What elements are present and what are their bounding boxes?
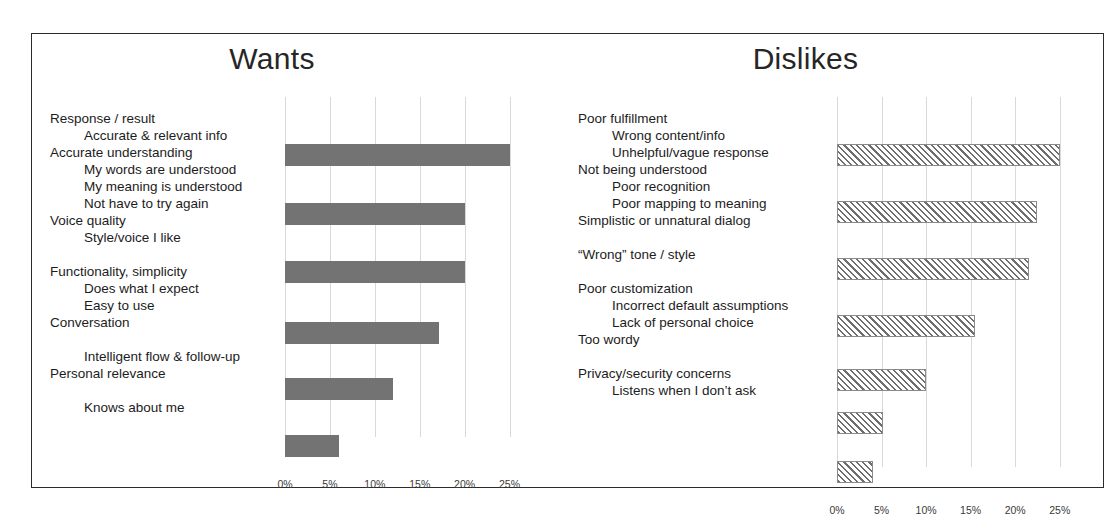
category-label-main: Too wordy (578, 331, 843, 348)
label-spacer (578, 229, 843, 246)
category-label-sub: Lack of personal choice (578, 314, 843, 331)
slide-frame: Wants Response / resultAccurate & releva… (31, 33, 1104, 488)
category-label-list-dislikes: Poor fulfillmentWrong content/infoUnhelp… (578, 110, 843, 399)
category-label-sub: Does what I expect (50, 280, 300, 297)
category-label-main: Conversation (50, 314, 300, 331)
gridline (1060, 97, 1061, 467)
bar (837, 258, 1029, 280)
category-label-main: Voice quality (50, 212, 300, 229)
category-label-sub: My meaning is understood (50, 178, 300, 195)
category-label-sub: Poor recognition (578, 178, 843, 195)
category-label-sub: Accurate & relevant info (50, 127, 300, 144)
bar (837, 144, 1060, 166)
panel-wants: Wants Response / resultAccurate & releva… (32, 34, 562, 487)
category-label-main: Privacy/security concerns (578, 365, 843, 382)
category-label-main: Personal relevance (50, 365, 300, 382)
category-label-main: Poor fulfillment (578, 110, 843, 127)
bar (837, 201, 1037, 223)
bar (837, 461, 873, 483)
category-label-main: Poor customization (578, 280, 843, 297)
category-label-main: “Wrong” tone / style (578, 246, 843, 263)
axis-tick-label: 5% (874, 504, 889, 516)
label-spacer (50, 382, 300, 399)
category-label-sub: Wrong content/info (578, 127, 843, 144)
category-label-sub: Style/voice I like (50, 229, 300, 246)
category-label-main: Functionality, simplicity (50, 263, 300, 280)
category-label-list-wants: Response / resultAccurate & relevant inf… (50, 110, 300, 416)
category-label-sub: Intelligent flow & follow-up (50, 348, 300, 365)
bar (837, 315, 975, 337)
axis-tick-label: 10% (916, 504, 937, 516)
bar-chart-dislikes (837, 97, 1082, 467)
category-label-main: Not being understood (578, 161, 843, 178)
category-label-sub: Not have to try again (50, 195, 300, 212)
axis-tick-label: 25% (499, 478, 520, 490)
panel-dislikes: Dislikes Poor fulfillmentWrong content/i… (562, 34, 1105, 487)
axis-tick-label: 0% (277, 478, 292, 490)
axis-tick-label: 15% (409, 478, 430, 490)
gridline (510, 97, 511, 437)
label-spacer (50, 331, 300, 348)
axis-tick-label: 15% (960, 504, 981, 516)
axis-tick-label: 5% (322, 478, 337, 490)
axis-tick-label: 0% (829, 504, 844, 516)
x-axis-dislikes: 0%5%10%15%20%25% (837, 504, 1082, 520)
bar (285, 435, 339, 457)
label-spacer (578, 263, 843, 280)
panel-title-wants: Wants (7, 42, 537, 76)
bar (285, 203, 465, 225)
bar (285, 261, 465, 283)
bar (285, 322, 439, 344)
panel-title-dislikes: Dislikes (534, 42, 1077, 76)
category-label-sub: Listens when I don’t ask (578, 382, 843, 399)
label-spacer (578, 348, 843, 365)
axis-tick-label: 10% (364, 478, 385, 490)
axis-tick-label: 25% (1049, 504, 1070, 516)
axis-tick-label: 20% (1005, 504, 1026, 516)
category-label-sub: My words are understood (50, 161, 300, 178)
x-axis-wants: 0%5%10%15%20%25% (285, 478, 532, 494)
category-label-sub: Unhelpful/vague response (578, 144, 843, 161)
category-label-main: Simplistic or unnatural dialog (578, 212, 843, 229)
category-label-sub: Knows about me (50, 399, 300, 416)
label-spacer (50, 246, 300, 263)
bar (837, 369, 926, 391)
bar-chart-wants (285, 97, 532, 437)
bar (285, 378, 393, 400)
category-label-sub: Poor mapping to meaning (578, 195, 843, 212)
axis-tick-label: 20% (454, 478, 475, 490)
bar (837, 412, 883, 434)
category-label-main: Accurate understanding (50, 144, 300, 161)
category-label-sub: Incorrect default assumptions (578, 297, 843, 314)
category-label-sub: Easy to use (50, 297, 300, 314)
category-label-main: Response / result (50, 110, 300, 127)
bar (285, 144, 510, 166)
